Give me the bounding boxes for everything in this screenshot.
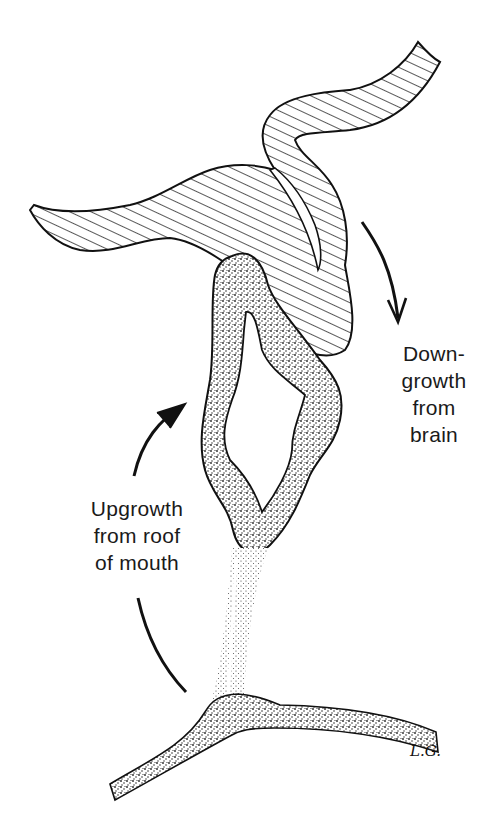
downgrowth-label: Down- growth from brain	[384, 340, 484, 448]
pouch-stalk	[212, 548, 268, 700]
upgrowth-label: Upgrowth from roof of mouth	[62, 495, 212, 576]
mouth-roof-tissue	[110, 694, 438, 800]
artist-signature: L.G.	[410, 742, 441, 760]
downgrowth-arrow-icon	[362, 222, 406, 322]
